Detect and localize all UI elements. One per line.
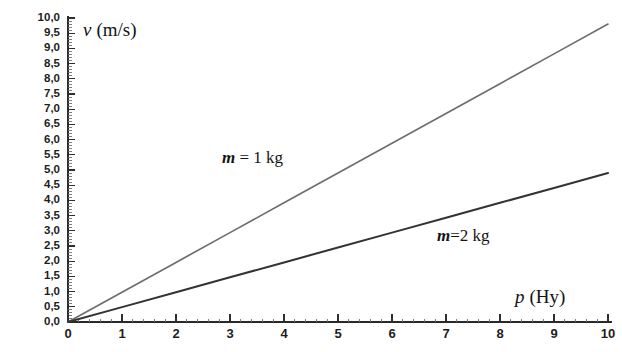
y-tick-label: 7,5 [44, 87, 61, 99]
x-tick-label: 5 [334, 326, 341, 341]
y-tick-label: 3,5 [44, 209, 61, 221]
y-tick-label: 6,5 [44, 117, 61, 129]
y-tick-label: 9,0 [44, 41, 60, 53]
y-axis-title: v(m/s) [83, 19, 137, 41]
x-tick-label: 8 [496, 326, 503, 341]
y-tick-label: 5,0 [44, 163, 60, 175]
x-tick-label: 9 [550, 326, 557, 341]
y-axis-ticks [68, 18, 75, 322]
velocity-momentum-chart: 0,00,51,01,52,02,53,03,54,04,55,05,56,06… [0, 0, 622, 352]
y-tick-label: 1,5 [44, 269, 61, 281]
y-axis-group: 0,00,51,01,52,02,53,03,54,04,55,05,56,06… [38, 11, 137, 327]
y-tick-label: 0,0 [44, 315, 60, 327]
series-line-m2 [68, 173, 608, 322]
y-tick-label: 10,0 [38, 11, 60, 23]
x-tick-label: 2 [172, 326, 179, 341]
y-tick-label: 5,5 [44, 148, 61, 160]
x-tick-label: 0 [64, 326, 71, 341]
y-tick-label: 2,0 [44, 254, 60, 266]
series-label-m1: m = 1 kg [222, 148, 284, 167]
y-tick-label: 1,0 [44, 285, 60, 297]
x-tick-label: 3 [226, 326, 233, 341]
x-tick-label: 4 [280, 326, 288, 341]
y-tick-label: 9,5 [44, 26, 61, 38]
y-tick-label: 7,0 [44, 102, 60, 114]
y-tick-label: 3,0 [44, 224, 60, 236]
y-tick-label: 8,0 [44, 72, 60, 84]
x-tick-label: 7 [442, 326, 449, 341]
x-tick-label: 10 [601, 326, 615, 341]
y-axis-tick-labels: 0,00,51,01,52,02,53,03,54,04,55,05,56,06… [38, 11, 61, 327]
y-tick-label: 0,5 [44, 300, 61, 312]
y-tick-label: 8,5 [44, 57, 61, 69]
x-axis-title: p(Hy) [513, 286, 565, 308]
series-label-m2: m=2 kg [437, 226, 490, 245]
y-tick-label: 4,5 [44, 178, 61, 190]
x-axis-tick-labels: 012345678910 [64, 326, 615, 341]
y-tick-label: 2,5 [44, 239, 61, 251]
x-axis-group: 012345678910 p(Hy) [64, 286, 615, 341]
x-tick-label: 6 [388, 326, 395, 341]
chart-canvas: 0,00,51,01,52,02,53,03,54,04,55,05,56,06… [0, 0, 622, 352]
x-tick-label: 1 [118, 326, 125, 341]
series-line-m1 [68, 24, 608, 322]
y-tick-label: 4,0 [44, 193, 60, 205]
x-axis-ticks [68, 314, 608, 322]
y-tick-label: 6,0 [44, 133, 60, 145]
data-series-group [68, 24, 608, 322]
